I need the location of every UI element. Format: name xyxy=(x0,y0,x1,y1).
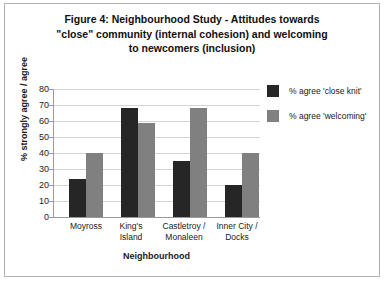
legend-swatch-icon xyxy=(267,110,279,122)
y-tick-mark xyxy=(49,137,53,138)
bar-series1[interactable] xyxy=(138,123,155,217)
y-tick-label: 60 xyxy=(31,117,49,126)
x-tick-label-castletroy-monaleen: Castletroy / Monaleen xyxy=(153,221,215,243)
legend-item-welcoming[interactable]: % agree 'welcoming' xyxy=(267,109,375,123)
chart-title-line-3: to newcomers (inclusion) xyxy=(15,41,369,56)
y-axis-title: % strongly agree / agree xyxy=(19,44,29,174)
legend-item-close-knit[interactable]: % agree 'close knit' xyxy=(267,84,375,98)
x-tick-line: Island xyxy=(120,232,143,242)
x-tick-line: King's xyxy=(120,221,143,231)
x-axis-title: Neighbourhood xyxy=(53,251,260,261)
chart-title-line-1: Figure 4: Neighbourhood Study - Attitude… xyxy=(15,12,369,27)
x-tick-line: Castletroy / xyxy=(163,221,206,231)
gridline xyxy=(53,89,260,90)
gridline xyxy=(53,137,260,138)
x-tick-line: Moyross xyxy=(70,221,102,231)
y-tick-mark xyxy=(49,201,53,202)
legend-label: % agree 'close knit' xyxy=(289,86,362,96)
y-axis-tick-labels: 80 70 60 50 40 30 20 10 0 xyxy=(29,89,49,217)
x-tick-line: Docks xyxy=(225,232,249,242)
y-tick-label: 40 xyxy=(31,149,49,158)
y-tick-mark xyxy=(49,105,53,106)
chart-legend: % agree 'close knit' % agree 'welcoming' xyxy=(267,84,375,134)
gridline xyxy=(53,105,260,106)
bar-series1[interactable] xyxy=(86,153,103,217)
y-tick-label: 0 xyxy=(31,213,49,222)
bar-series0[interactable] xyxy=(173,161,190,217)
y-tick-label: 30 xyxy=(31,165,49,174)
x-tick-label-inner-city-docks: Inner City / Docks xyxy=(209,221,265,243)
y-tick-mark xyxy=(49,121,53,122)
x-tick-label-kings-island: King's Island xyxy=(105,221,157,243)
gridline xyxy=(53,153,260,154)
y-tick-label: 70 xyxy=(31,101,49,110)
x-axis-tick-labels: Moyross King's Island Castletroy / Monal… xyxy=(53,221,260,249)
y-tick-label: 10 xyxy=(31,197,49,206)
chart-title-line-2: "close" community (internal cohesion) an… xyxy=(15,27,369,42)
y-tick-mark xyxy=(49,169,53,170)
legend-label: % agree 'welcoming' xyxy=(289,111,366,121)
bar-series0[interactable] xyxy=(225,185,242,217)
legend-swatch-icon xyxy=(267,85,279,97)
chart-figure: Figure 4: Neighbourhood Study - Attitude… xyxy=(4,3,380,277)
chart-title: Figure 4: Neighbourhood Study - Attitude… xyxy=(15,12,369,56)
y-tick-label: 20 xyxy=(31,181,49,190)
bar-series0[interactable] xyxy=(69,179,86,217)
x-tick-line: Inner City / xyxy=(216,221,257,231)
gridline xyxy=(53,121,260,122)
bar-series1[interactable] xyxy=(242,153,259,217)
y-tick-label: 50 xyxy=(31,133,49,142)
x-tick-line: Monaleen xyxy=(165,232,202,242)
bar-series1[interactable] xyxy=(190,108,207,217)
y-tick-mark xyxy=(49,153,53,154)
y-tick-mark xyxy=(49,89,53,90)
x-axis-line xyxy=(48,217,260,218)
y-tick-label: 80 xyxy=(31,85,49,94)
bar-series0[interactable] xyxy=(121,108,138,217)
y-axis-line xyxy=(53,89,54,218)
y-tick-mark xyxy=(49,185,53,186)
y-tick-mark xyxy=(49,217,53,218)
plot-area xyxy=(53,89,260,217)
gridline xyxy=(53,169,260,170)
